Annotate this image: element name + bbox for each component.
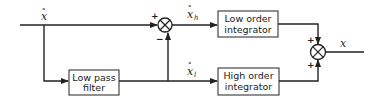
complementary-filter-diagram: ° x Low pass filter + − ° x h ° x l Low … bbox=[0, 0, 383, 103]
high-order-integrator-block: High order integrator bbox=[218, 68, 279, 95]
low-pass-label-1: Low pass bbox=[72, 72, 116, 83]
high-order-label-2: integrator bbox=[225, 81, 273, 92]
low-order-label-1: Low order bbox=[224, 13, 271, 24]
xl-label: x bbox=[187, 65, 194, 78]
high-order-label-1: High order bbox=[223, 70, 273, 81]
low-pass-filter-block: Low pass filter bbox=[69, 70, 119, 95]
output-label: x bbox=[340, 37, 347, 50]
low-order-integrator-block: Low order integrator bbox=[218, 11, 278, 37]
low-order-label-2: integrator bbox=[224, 24, 272, 35]
branch-line bbox=[44, 25, 68, 81]
summing-junction-1 bbox=[158, 18, 172, 32]
xh-label: x bbox=[187, 8, 194, 21]
low-pass-label-2: filter bbox=[83, 82, 105, 93]
input-label: x bbox=[41, 10, 48, 23]
xh-subscript: h bbox=[194, 14, 199, 22]
junction1-plus: + bbox=[151, 11, 159, 21]
junction2-plus-top: + bbox=[307, 35, 315, 45]
summing-junction-2 bbox=[311, 45, 326, 60]
junction2-plus-bottom: + bbox=[307, 60, 315, 70]
junction1-minus: − bbox=[156, 34, 164, 44]
xl-subscript: l bbox=[194, 71, 196, 79]
